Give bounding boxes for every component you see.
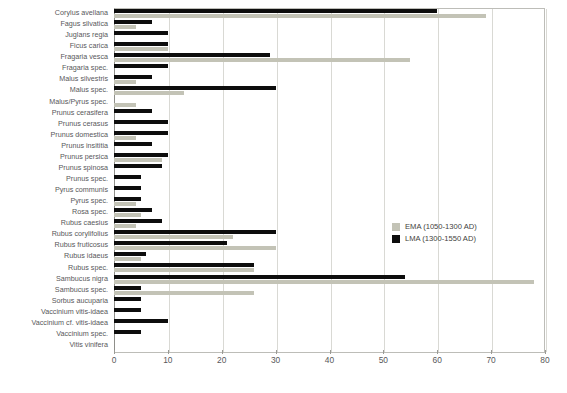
bar-lma (114, 208, 152, 212)
y-axis-label: Vitis vinifera (69, 341, 108, 349)
bar-lma (114, 153, 168, 157)
bar-row (114, 218, 545, 229)
x-tick-mark (545, 350, 546, 354)
bar-row (114, 174, 545, 185)
bar-row (114, 240, 545, 251)
bar-row (114, 74, 545, 85)
bar-lma (114, 131, 168, 135)
bar-row (114, 251, 545, 262)
legend-swatch-icon (392, 223, 400, 231)
x-tick-mark (383, 350, 384, 354)
bar-lma (114, 219, 162, 223)
x-tick-label: 0 (112, 355, 117, 365)
y-axis-label: Rubus idaeus (64, 252, 108, 260)
gridline (546, 9, 547, 352)
bar-row (114, 141, 545, 152)
bar-row (114, 163, 545, 174)
y-axis-label: Fragaria spec. (62, 64, 108, 72)
y-axis-label: Malus/Pyrus spec. (49, 98, 108, 106)
legend-item: EMA (1050-1300 AD) (392, 222, 477, 231)
bar-rows (114, 8, 545, 351)
y-axis-label: Juglans regia (65, 31, 108, 39)
bar-ema (114, 58, 410, 62)
y-axis-label: Malus silvestris (59, 75, 108, 83)
y-axis-label: Ficus carica (70, 42, 108, 50)
x-tick-label: 80 (540, 355, 549, 365)
legend-label: LMA (1300-1550 AD) (405, 234, 476, 243)
x-tick-label: 50 (379, 355, 388, 365)
y-axis-label: Vaccinium cf. vitis-idaea (31, 319, 108, 327)
bar-ema (114, 80, 136, 84)
bar-lma (114, 252, 146, 256)
x-tick-label: 70 (486, 355, 495, 365)
bar-row (114, 41, 545, 52)
x-tick-label: 30 (271, 355, 280, 365)
legend-label: EMA (1050-1300 AD) (405, 222, 477, 231)
bar-ema (114, 158, 162, 162)
bar-ema (114, 25, 136, 29)
bar-lma (114, 330, 141, 334)
x-tick-mark (222, 350, 223, 354)
y-axis-label: Rubus caesius (61, 219, 108, 227)
y-axis-label: Rosa spec. (72, 208, 108, 216)
bar-row (114, 329, 545, 340)
bar-row (114, 130, 545, 141)
bar-lma (114, 86, 276, 90)
bar-lma (114, 120, 168, 124)
y-axis-label: Prunus persica (60, 153, 108, 161)
bar-ema (114, 103, 136, 107)
y-axis-label: Pyrus spec. (70, 197, 108, 205)
bar-row (114, 19, 545, 30)
y-axis-label: Vaccinium spec. (56, 330, 108, 338)
bar-chart: Corylus avellanaFagus silvaticaJuglans r… (0, 0, 567, 393)
x-tick-label: 40 (325, 355, 334, 365)
bar-row (114, 108, 545, 119)
bar-lma (114, 31, 168, 35)
x-tick-label: 60 (433, 355, 442, 365)
y-axis-label: Rubus corylifolius (52, 230, 108, 238)
bar-ema (114, 280, 534, 284)
y-axis-label: Sambucus nigra (56, 275, 108, 283)
bar-ema (114, 202, 136, 206)
bar-lma (114, 142, 152, 146)
bar-row (114, 296, 545, 307)
x-tick-mark (330, 350, 331, 354)
y-axis-label: Fragaria vesca (60, 53, 108, 61)
bar-row (114, 52, 545, 63)
bar-ema (114, 47, 168, 51)
bar-row (114, 207, 545, 218)
bar-lma (114, 286, 141, 290)
bar-row (114, 307, 545, 318)
y-axis-label: Vaccinium vitis-idaea (41, 308, 108, 316)
bar-ema (114, 136, 136, 140)
bar-row (114, 152, 545, 163)
bar-lma (114, 308, 141, 312)
y-axis-label: Fagus silvatica (60, 20, 108, 28)
bar-row (114, 30, 545, 41)
y-axis-label: Prunus cerasus (58, 120, 108, 128)
bar-row (114, 196, 545, 207)
bar-row (114, 63, 545, 74)
bar-lma (114, 9, 437, 13)
chart-legend: EMA (1050-1300 AD)LMA (1300-1550 AD) (392, 222, 477, 246)
bar-lma (114, 175, 141, 179)
x-tick-label: 20 (217, 355, 226, 365)
bar-lma (114, 319, 168, 323)
y-axis-labels: Corylus avellanaFagus silvaticaJuglans r… (0, 8, 111, 351)
y-axis-label: Rubus fruticosus (54, 241, 108, 249)
bar-row (114, 85, 545, 96)
legend-item: LMA (1300-1550 AD) (392, 234, 477, 243)
bar-row (114, 185, 545, 196)
bar-lma (114, 197, 141, 201)
y-axis-label: Prunus spec. (66, 175, 108, 183)
bar-lma (114, 53, 270, 57)
x-tick-mark (168, 350, 169, 354)
bar-row (114, 229, 545, 240)
x-tick-mark (276, 350, 277, 354)
bar-lma (114, 164, 162, 168)
y-axis-label: Malus spec. (70, 86, 108, 94)
bar-lma (114, 241, 227, 245)
y-axis-label: Pyrus communis (55, 186, 108, 194)
bar-row (114, 274, 545, 285)
bar-row (114, 285, 545, 296)
